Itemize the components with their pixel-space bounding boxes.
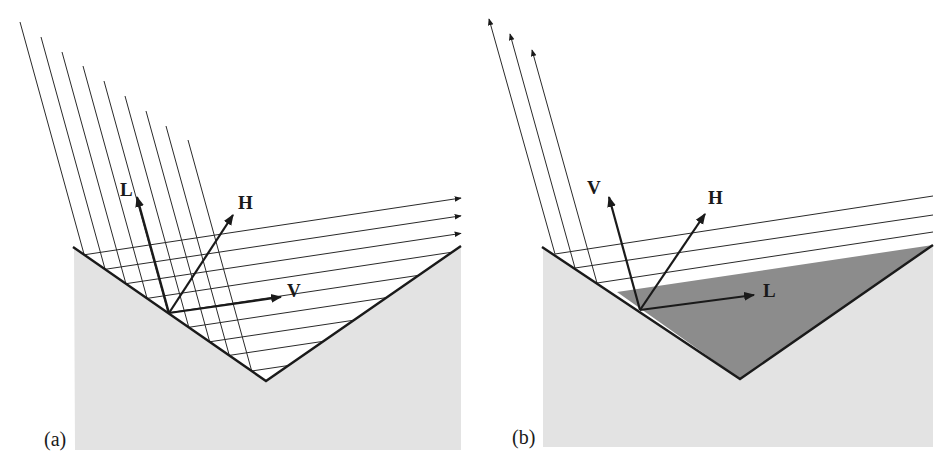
outgoing-ray bbox=[510, 34, 575, 268]
panel-a: L H V (a) bbox=[20, 22, 461, 451]
vector-v-label: V bbox=[587, 177, 601, 198]
ground-region bbox=[74, 246, 461, 450]
vector-v-label: V bbox=[287, 280, 301, 301]
incoming-ray bbox=[20, 22, 84, 255]
outgoing-rays bbox=[489, 19, 597, 283]
vector-v-arrow bbox=[169, 297, 281, 313]
vector-l-label: L bbox=[120, 179, 133, 200]
panel-b: V H L (b) bbox=[489, 19, 933, 449]
outgoing-ray bbox=[489, 19, 555, 254]
vector-h-label: H bbox=[708, 187, 723, 208]
incoming-ray bbox=[41, 37, 105, 269]
reflected-ray-escaping bbox=[105, 216, 461, 269]
v-groove-reflection-figure: L H V (a) V H L bbox=[0, 0, 947, 464]
panel-a-label: (a) bbox=[44, 428, 66, 451]
vector-l-label: L bbox=[763, 280, 776, 301]
vector-h-label: H bbox=[238, 192, 253, 213]
incoming-ray bbox=[62, 52, 126, 284]
panel-b-label: (b) bbox=[512, 426, 535, 449]
